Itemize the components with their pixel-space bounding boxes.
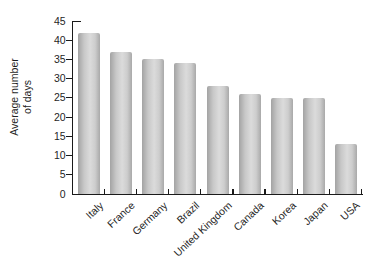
x-label-brazil: Brazil [174,199,201,226]
x-tick [264,189,265,194]
bar-germany [142,59,164,194]
bar-france [110,52,132,194]
y-tick-label: 0 [36,188,66,201]
y-tick-label: 35 [36,53,66,66]
x-tick [168,189,169,194]
bar-canada [239,94,261,194]
y-tick-label: 5 [36,168,66,181]
y-tick [66,117,72,118]
bar-korea [271,98,293,194]
x-axis-end-cap [361,189,362,194]
y-tick [66,40,72,41]
x-label-korea: Korea [269,199,298,227]
x-tick [329,189,330,194]
y-axis-line [72,21,73,195]
bar-usa [335,144,357,194]
x-label-united-kingdom: United Kingdom [171,199,234,259]
x-label-canada: Canada [231,199,266,233]
x-label-italy: Italy [83,199,105,221]
y-tick [66,78,72,79]
x-tick [104,189,105,194]
y-tick [66,97,72,98]
y-tick-label: 10 [36,149,66,162]
x-tick [297,189,298,194]
y-tick-label: 25 [36,91,66,104]
y-tick [66,59,72,60]
x-label-japan: Japan [301,199,330,227]
x-tick [136,189,137,194]
y-axis-top-cap [73,21,81,22]
x-axis-line [72,194,364,195]
y-tick [66,155,72,156]
bar-italy [78,33,100,194]
y-tick-label: 15 [36,130,66,143]
y-tick [66,174,72,175]
y-tick-label: 45 [36,15,66,28]
chart-container: Average number of days 05101520253035404… [0,0,385,273]
plot-area: 051015202530354045ItalyFranceGermanyBraz… [0,0,385,273]
x-label-usa: USA [338,199,362,223]
y-tick-label: 30 [36,72,66,85]
x-tick [232,189,233,194]
bar-japan [303,98,325,194]
x-tick [200,189,201,194]
y-tick-label: 20 [36,111,66,124]
y-tick-label: 40 [36,34,66,47]
bar-united-kingdom [207,86,229,194]
bar-brazil [174,63,196,194]
y-tick [66,136,72,137]
